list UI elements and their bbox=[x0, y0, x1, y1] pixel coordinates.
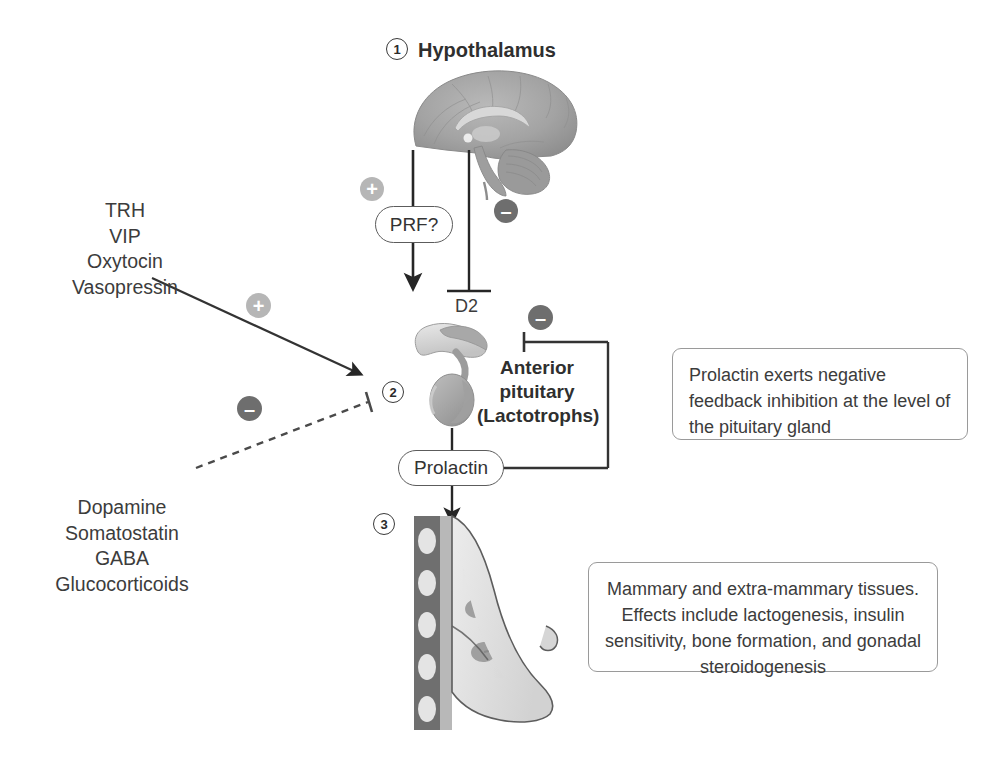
brain-sagittal-illustration bbox=[414, 71, 577, 200]
anterior-pituitary-label: Anterior pituitary (Lactotrophs) bbox=[477, 356, 597, 428]
d2-receptor-label: D2 bbox=[455, 296, 478, 317]
plus-badge-prf: + bbox=[360, 177, 384, 201]
inhibitory-factors-label: Dopamine Somatostatin GABA Glucocorticoi… bbox=[22, 495, 222, 597]
callout-target-tissues: Mammary and extra-mammary tissues. Effec… bbox=[588, 562, 938, 672]
step-marker-1: 1 bbox=[386, 38, 408, 60]
page-title: Hypothalamus bbox=[418, 39, 556, 62]
minus-badge-feedback: – bbox=[528, 305, 553, 330]
prolactin-node[interactable]: Prolactin bbox=[398, 450, 504, 486]
step-marker-2: 2 bbox=[382, 381, 404, 403]
stimulatory-factors-label: TRH VIP Oxytocin Vasopressin bbox=[30, 198, 220, 300]
minus-badge-left: – bbox=[237, 396, 262, 421]
prolactin-regulation-diagram: 1 Hypothalamus TRH VIP Oxytocin Vasopres… bbox=[0, 0, 1003, 758]
step-marker-3: 3 bbox=[373, 513, 395, 535]
breast-cross-section-illustration bbox=[414, 516, 558, 730]
minus-badge-dopamine: – bbox=[494, 199, 518, 223]
plus-badge-left: + bbox=[246, 293, 271, 318]
callout-negative-feedback: Prolactin exerts negative feedback inhib… bbox=[672, 348, 968, 440]
prf-node[interactable]: PRF? bbox=[375, 206, 453, 243]
inhibitory-dashed-line bbox=[196, 402, 368, 468]
